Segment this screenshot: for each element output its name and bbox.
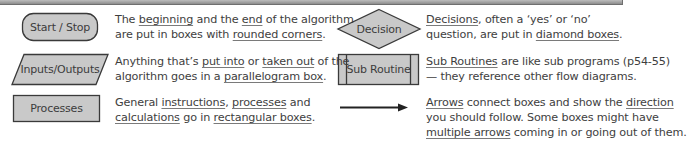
- key-term: taken out: [262, 55, 314, 68]
- key-term: rectangular boxes: [214, 111, 312, 124]
- key-term: calculations: [115, 111, 180, 124]
- arrow-head-icon: [398, 104, 408, 112]
- key-term: Arrows: [426, 96, 463, 109]
- arrow-description: Arrows connect boxes and show the direct…: [426, 95, 687, 140]
- processes-description: General instructions, processes andcalcu…: [115, 95, 315, 125]
- decision-description: Decisions, often a ‘yes’ or ‘no’question…: [426, 12, 622, 42]
- inputs-outputs-label: Inputs/Outputs: [12, 54, 108, 85]
- key-term: multiple arrows: [426, 126, 510, 139]
- key-term: processes: [232, 96, 286, 109]
- key-term: Sub Routines: [426, 55, 498, 68]
- key-term: instructions: [161, 96, 225, 109]
- key-term: end: [242, 13, 263, 26]
- processes-label: Processes: [13, 95, 100, 122]
- key-term: put into: [202, 55, 244, 68]
- start-stop-label: Start / Stop: [22, 13, 98, 41]
- sub-routine-description: Sub Routines are like sub programs (p54-…: [426, 54, 670, 84]
- sub-routine-label: Sub Routine: [338, 54, 419, 85]
- key-term: direction: [626, 96, 674, 109]
- start-stop-description: The beginning and the end of the algorit…: [115, 12, 354, 42]
- key-term: Decisions: [426, 13, 478, 26]
- key-term: parallelogram box: [224, 70, 323, 83]
- key-term: rounded corners: [233, 28, 323, 41]
- key-term: diamond boxes: [536, 28, 619, 41]
- key-term: beginning: [139, 13, 193, 26]
- inputs-outputs-description: Anything that’s put into or taken out of…: [115, 54, 349, 84]
